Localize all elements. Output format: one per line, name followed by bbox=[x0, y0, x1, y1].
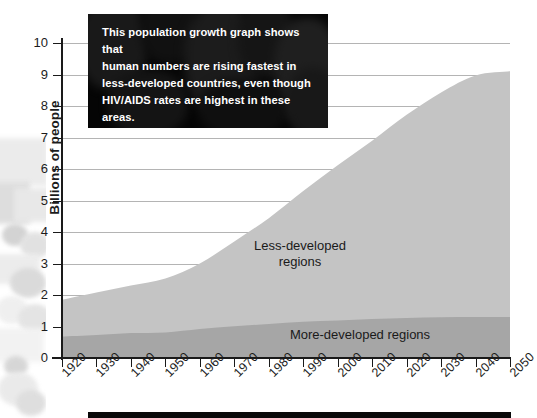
y-tick-10 bbox=[53, 43, 62, 44]
y-tick-3 bbox=[53, 264, 62, 265]
series-label-less-line1: Less-developed bbox=[254, 238, 346, 254]
y-axis-title: Billions of people bbox=[47, 98, 62, 218]
y-tick-label-2: 2 bbox=[18, 288, 48, 301]
y-tick-2 bbox=[53, 295, 62, 296]
y-tick-label-7: 7 bbox=[18, 131, 48, 144]
x-tick-label-2050: 2050 bbox=[507, 350, 537, 380]
population-growth-area-chart: 012345678910 192019301940195019601970198… bbox=[0, 0, 537, 418]
bottom-rule bbox=[88, 412, 511, 418]
y-tick-label-0: 0 bbox=[18, 351, 48, 364]
series-label-less-developed: Less-developed regions bbox=[254, 238, 346, 270]
y-tick-label-6: 6 bbox=[18, 162, 48, 175]
y-tick-label-5: 5 bbox=[18, 194, 48, 207]
y-tick-9 bbox=[53, 75, 62, 76]
caption-body-text: This population growth graph shows that … bbox=[102, 24, 316, 126]
y-tick-4 bbox=[53, 232, 62, 233]
y-tick-label-4: 4 bbox=[18, 225, 48, 238]
y-tick-1 bbox=[53, 327, 62, 328]
series-label-less-line2: regions bbox=[254, 254, 346, 270]
y-tick-0 bbox=[53, 358, 62, 359]
y-tick-label-3: 3 bbox=[18, 257, 48, 270]
y-tick-label-8: 8 bbox=[18, 99, 48, 112]
y-tick-label-1: 1 bbox=[18, 320, 48, 333]
y-tick-label-9: 9 bbox=[18, 68, 48, 81]
caption-panel: This population growth graph shows that … bbox=[88, 14, 328, 128]
y-tick-label-10: 10 bbox=[18, 36, 48, 49]
series-label-more-developed: More-developed regions bbox=[290, 327, 430, 343]
